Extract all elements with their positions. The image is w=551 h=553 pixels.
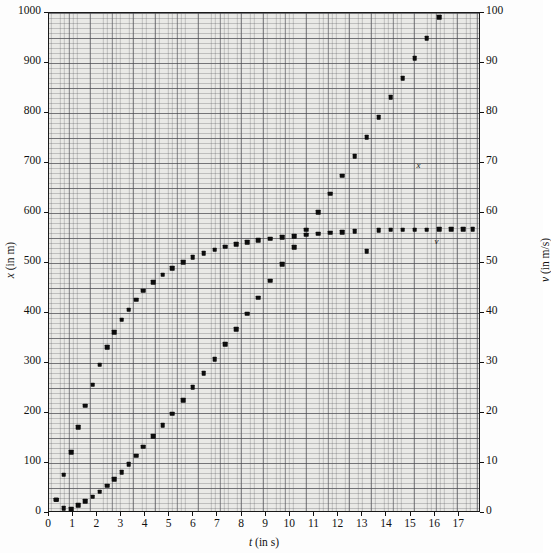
data-point-v <box>352 229 357 234</box>
data-point-v <box>388 227 393 232</box>
x-tick-mark <box>168 512 169 516</box>
y-left-tick-label: 900 <box>0 54 41 66</box>
y-left-axis-variable: x <box>4 273 16 278</box>
x-tick-label: 15 <box>398 517 422 529</box>
data-point-v <box>112 330 117 335</box>
y-left-tick-mark <box>44 12 48 13</box>
y-left-tick-mark <box>44 312 48 313</box>
x-tick-mark <box>216 512 217 516</box>
data-point-v <box>425 227 430 232</box>
x-tick-label: 8 <box>229 517 253 529</box>
data-point-x <box>234 327 239 332</box>
data-point-v <box>223 244 228 249</box>
data-point-v <box>316 231 321 236</box>
x-tick-label: 16 <box>422 517 446 529</box>
y-right-tick-mark <box>480 512 484 513</box>
x-tick-mark <box>458 512 459 516</box>
data-point-v <box>61 472 66 477</box>
data-point-x <box>112 477 117 482</box>
data-point-v <box>191 255 196 260</box>
data-point-v <box>449 227 454 232</box>
y-left-tick-label: 300 <box>0 354 41 366</box>
y-left-tick-label: 1000 <box>0 4 41 16</box>
y-left-tick-mark <box>44 362 48 363</box>
x-tick-label: 7 <box>205 517 229 529</box>
x-tick-label: 10 <box>277 517 301 529</box>
data-point-x <box>191 385 196 390</box>
y-right-axis-variable: v <box>539 277 551 282</box>
x-tick-mark <box>434 512 435 516</box>
data-point-v <box>280 235 285 240</box>
x-tick-label: 5 <box>157 517 181 529</box>
data-point-x <box>76 503 81 508</box>
data-point-v <box>364 249 369 254</box>
y-left-tick-mark <box>44 512 48 513</box>
data-point-v <box>83 403 88 408</box>
data-point-v <box>160 272 165 277</box>
data-point-v <box>328 230 333 235</box>
data-point-v <box>376 228 381 233</box>
data-point-v <box>134 297 139 302</box>
data-point-x <box>304 227 309 232</box>
y-right-tick-mark <box>480 162 484 163</box>
data-point-x <box>364 135 369 140</box>
y-right-axis-title: v (in m/s) <box>539 210 551 310</box>
data-point-x <box>340 173 345 178</box>
data-point-v <box>304 232 309 237</box>
y-right-tick-label: 70 <box>486 154 514 166</box>
x-tick-mark <box>241 512 242 516</box>
data-point-v <box>170 266 175 271</box>
data-point-x <box>119 470 124 475</box>
data-point-x <box>170 411 175 416</box>
x-tick-mark <box>289 512 290 516</box>
x-tick-label: 13 <box>350 517 374 529</box>
data-point-v <box>90 382 95 387</box>
data-point-x <box>413 56 418 61</box>
series-label-x: x <box>416 160 420 170</box>
data-point-v <box>181 260 186 265</box>
data-point-v <box>212 247 217 252</box>
y-left-tick-mark <box>44 262 48 263</box>
data-point-x <box>316 210 321 215</box>
y-right-tick-mark <box>480 462 484 463</box>
data-point-v <box>413 227 418 232</box>
x-tick-mark <box>337 512 338 516</box>
x-tick-mark <box>48 512 49 516</box>
y-right-tick-label: 0 <box>486 504 514 516</box>
data-point-v <box>470 227 475 232</box>
x-axis-variable: t <box>249 536 252 548</box>
data-point-x <box>151 434 156 439</box>
y-left-tick-label: 700 <box>0 154 41 166</box>
data-point-x <box>245 311 250 316</box>
y-left-tick-mark <box>44 112 48 113</box>
y-right-tick-label: 20 <box>486 404 514 416</box>
data-point-x <box>268 278 273 283</box>
y-right-tick-mark <box>480 112 484 113</box>
data-point-x <box>352 154 357 159</box>
data-point-x <box>141 444 146 449</box>
y-right-tick-label: 40 <box>486 304 514 316</box>
data-point-v <box>76 425 81 430</box>
data-point-v <box>127 307 132 312</box>
data-point-v <box>141 288 146 293</box>
y-right-tick-mark <box>480 412 484 413</box>
data-point-x <box>105 483 110 488</box>
y-right-tick-label: 50 <box>486 254 514 266</box>
data-point-v <box>461 227 466 232</box>
y-right-tick-label: 30 <box>486 354 514 366</box>
y-left-tick-mark <box>44 162 48 163</box>
data-point-x <box>256 295 261 300</box>
y-left-tick-label: 200 <box>0 404 41 416</box>
data-point-x <box>400 76 405 81</box>
y-left-tick-mark <box>44 212 48 213</box>
x-tick-label: 1 <box>60 517 84 529</box>
data-point-v <box>245 240 250 245</box>
data-point-v <box>105 345 110 350</box>
x-tick-label: 0 <box>36 517 60 529</box>
x-tick-label: 2 <box>84 517 108 529</box>
x-tick-mark <box>385 512 386 516</box>
data-point-x <box>160 423 165 428</box>
data-point-x <box>134 453 139 458</box>
x-tick-label: 4 <box>133 517 157 529</box>
